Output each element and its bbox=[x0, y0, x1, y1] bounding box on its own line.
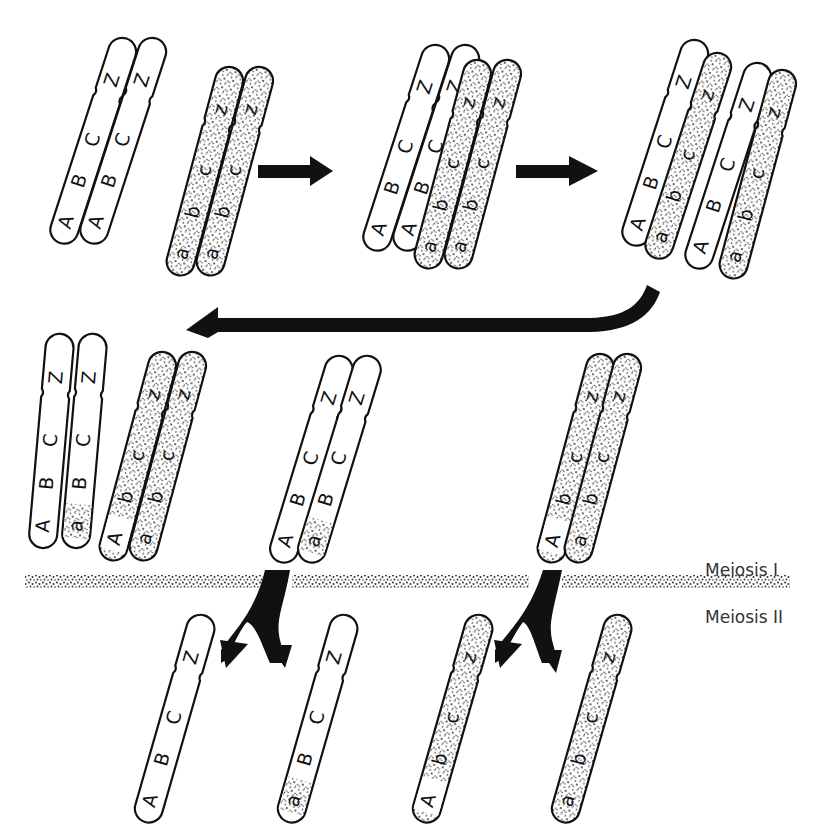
stage-4-recombined-tetrad: ABCZaBCZAbczabcz bbox=[28, 333, 209, 564]
curved-arrow-left-icon bbox=[186, 285, 660, 338]
chromatid: aBCZ bbox=[275, 611, 361, 825]
maternal-dyad: Abczabcz bbox=[534, 351, 644, 566]
gamete-1: ABCZ bbox=[132, 611, 218, 825]
maternal-homolog: Abczabcz bbox=[96, 349, 209, 564]
paternal-dyad: ABCZaBCZ bbox=[267, 352, 385, 566]
meiosis-divider bbox=[25, 575, 790, 588]
chromatid: Abcz bbox=[410, 611, 496, 825]
stage-6-meiosis-ii-products: ABCZaBCZAbczabcz bbox=[132, 611, 635, 825]
gene-label: C bbox=[71, 433, 94, 448]
gene-label: Z bbox=[44, 370, 67, 385]
divider-band-left bbox=[25, 575, 263, 588]
diagram-canvas: ABCZABCZabczabczABCZABCZabczabczABCZABCZ… bbox=[0, 0, 820, 835]
gene-label: B bbox=[35, 476, 58, 491]
stage-3-crossing-over: ABCZABCZabczabcz bbox=[619, 36, 799, 281]
chromatid: ABCZ bbox=[132, 611, 218, 825]
gene-label: B bbox=[68, 476, 91, 491]
meiosis-crossing-over-diagram: ABCZABCZabczabczABCZABCZabczabczABCZABCZ… bbox=[0, 0, 820, 835]
paternal-homolog: ABCZABCZ bbox=[47, 34, 170, 247]
stage-2-synapsis: ABCZABCZabczabcz bbox=[360, 41, 524, 271]
divider-band-middle bbox=[292, 575, 529, 588]
gene-label: C bbox=[38, 433, 61, 448]
stage-5-meiosis-i-products: ABCZaBCZAbczabcz bbox=[267, 351, 645, 566]
arrow-right-icon bbox=[258, 156, 333, 186]
chromatid: abcz bbox=[549, 611, 635, 825]
gene-label: A bbox=[31, 519, 54, 534]
stage-1-separate-homologs: ABCZABCZabczabcz bbox=[47, 34, 276, 278]
gene-label: Z bbox=[77, 370, 100, 385]
gamete-2-recombinant: aBCZ bbox=[275, 611, 361, 825]
gene-label: a bbox=[64, 519, 87, 533]
gamete-3-recombinant: Abcz bbox=[410, 611, 496, 825]
paternal-homolog: ABCZaBCZ bbox=[28, 333, 108, 550]
meiosis-ii-label: Meiosis II bbox=[705, 607, 783, 627]
arrow-right-icon bbox=[516, 156, 598, 186]
gamete-4: abcz bbox=[549, 611, 635, 825]
meiosis-i-label: Meiosis I bbox=[705, 560, 778, 580]
chromosomes: ABCZABCZabczabczABCZABCZabczabczABCZABCZ… bbox=[28, 34, 799, 826]
